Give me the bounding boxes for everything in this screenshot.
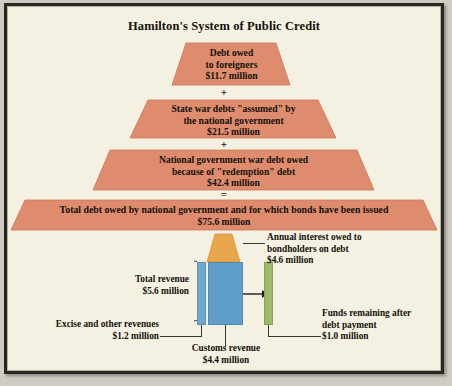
annual-interest-label: Annual interest owed to bondholders on d… [267, 232, 427, 267]
tier-3-value: $42.4 million [81, 177, 386, 189]
operator-plus-1: + [9, 86, 439, 98]
tier-2-value: $21.5 million [107, 126, 360, 138]
figure-root: Hamilton's System of Public Credit Debt … [0, 0, 452, 386]
annual-interest-line-1: Annual interest owed to [267, 232, 427, 244]
funds-remaining-label: Funds remaining after debt payment $1.0 … [322, 308, 439, 343]
tier-3-label: National government war debt owed becaus… [81, 154, 386, 189]
tier-4-label: Total debt owed by national government a… [14, 204, 434, 227]
funds-leader-horizontal [268, 336, 321, 337]
customs-revenue-line-1: Customs revenue [160, 343, 292, 355]
total-revenue-label: Total revenue $5.6 million [69, 274, 189, 297]
funds-remaining-value: $1.0 million [322, 331, 439, 343]
tier-3-line-1: National government war debt owed [81, 154, 386, 166]
diagram-panel: Hamilton's System of Public Credit Debt … [9, 8, 439, 369]
customs-revenue-value: $4.4 million [160, 355, 292, 367]
tier-4-value: $75.6 million [14, 216, 434, 228]
tier-1-label: Debt owed to foreigners $11.7 million [159, 47, 304, 82]
tier-2-line-2: the national government [107, 115, 360, 127]
tier-1-line-1: Debt owed [159, 47, 304, 59]
excise-revenue-bar [197, 262, 206, 325]
operator-equals: = [9, 188, 439, 200]
funds-remaining-line-1: Funds remaining after [322, 308, 439, 320]
annual-interest-line-2: bondholders on debt [267, 244, 427, 256]
tier-2-label: State war debts "assumed" by the nationa… [107, 103, 360, 138]
tier-1-value: $11.7 million [159, 70, 304, 82]
funds-remaining-line-2: debt payment [322, 320, 439, 332]
tier-2-line-1: State war debts "assumed" by [107, 103, 360, 115]
excise-revenue-value: $1.2 million [17, 331, 159, 343]
customs-revenue-bar [208, 262, 243, 325]
tier-1-line-2: to foreigners [159, 59, 304, 71]
annual-interest-leader [243, 243, 265, 244]
tier-3-line-2: because of "redemption" debt [81, 166, 386, 178]
excise-revenue-line-1: Excise and other revenues [17, 319, 159, 331]
customs-revenue-label: Customs revenue $4.4 million [160, 343, 292, 366]
funds-remaining-bar [264, 262, 273, 325]
total-revenue-value: $5.6 million [69, 286, 189, 298]
annual-interest-value: $4.6 million [267, 255, 427, 267]
annual-interest-shape [207, 234, 240, 262]
excise-leader-horizontal [160, 336, 202, 337]
total-revenue-line-1: Total revenue [69, 274, 189, 286]
excise-revenue-label: Excise and other revenues $1.2 million [17, 319, 159, 342]
tier-4-line-1: Total debt owed by national government a… [14, 204, 434, 216]
operator-plus-2: + [9, 138, 439, 150]
